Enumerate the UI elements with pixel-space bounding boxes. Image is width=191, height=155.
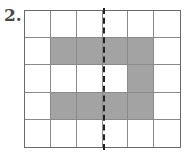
shaded-cell bbox=[103, 93, 129, 120]
grid-cell bbox=[51, 11, 77, 38]
shaded-cell bbox=[103, 38, 129, 65]
grid-cell bbox=[77, 11, 103, 38]
grid-cell bbox=[128, 120, 154, 147]
grid-cell bbox=[154, 120, 180, 147]
grid-cell bbox=[154, 38, 180, 65]
grid-cell bbox=[154, 11, 180, 38]
shaded-cell bbox=[51, 93, 77, 120]
grid-cell bbox=[25, 65, 51, 92]
grid-cell bbox=[77, 65, 103, 92]
grid-cell bbox=[25, 120, 51, 147]
shaded-cell bbox=[128, 38, 154, 65]
problem-number: 2. bbox=[4, 5, 22, 25]
shaded-cell bbox=[128, 65, 154, 92]
shaded-cell bbox=[51, 38, 77, 65]
dashed-line-of-symmetry bbox=[103, 8, 105, 150]
grid-cell bbox=[103, 65, 129, 92]
grid-cell bbox=[25, 11, 51, 38]
grid-cell bbox=[51, 65, 77, 92]
grid-cell bbox=[51, 120, 77, 147]
shaded-cell bbox=[128, 93, 154, 120]
shaded-cell bbox=[77, 93, 103, 120]
shaded-cell bbox=[77, 38, 103, 65]
grid-cell bbox=[77, 120, 103, 147]
grid-cell bbox=[103, 11, 129, 38]
grid-cell bbox=[103, 120, 129, 147]
grid-cell bbox=[128, 11, 154, 38]
grid-cell bbox=[25, 93, 51, 120]
grid-cell bbox=[25, 38, 51, 65]
grid-cell bbox=[154, 65, 180, 92]
grid-cell bbox=[154, 93, 180, 120]
